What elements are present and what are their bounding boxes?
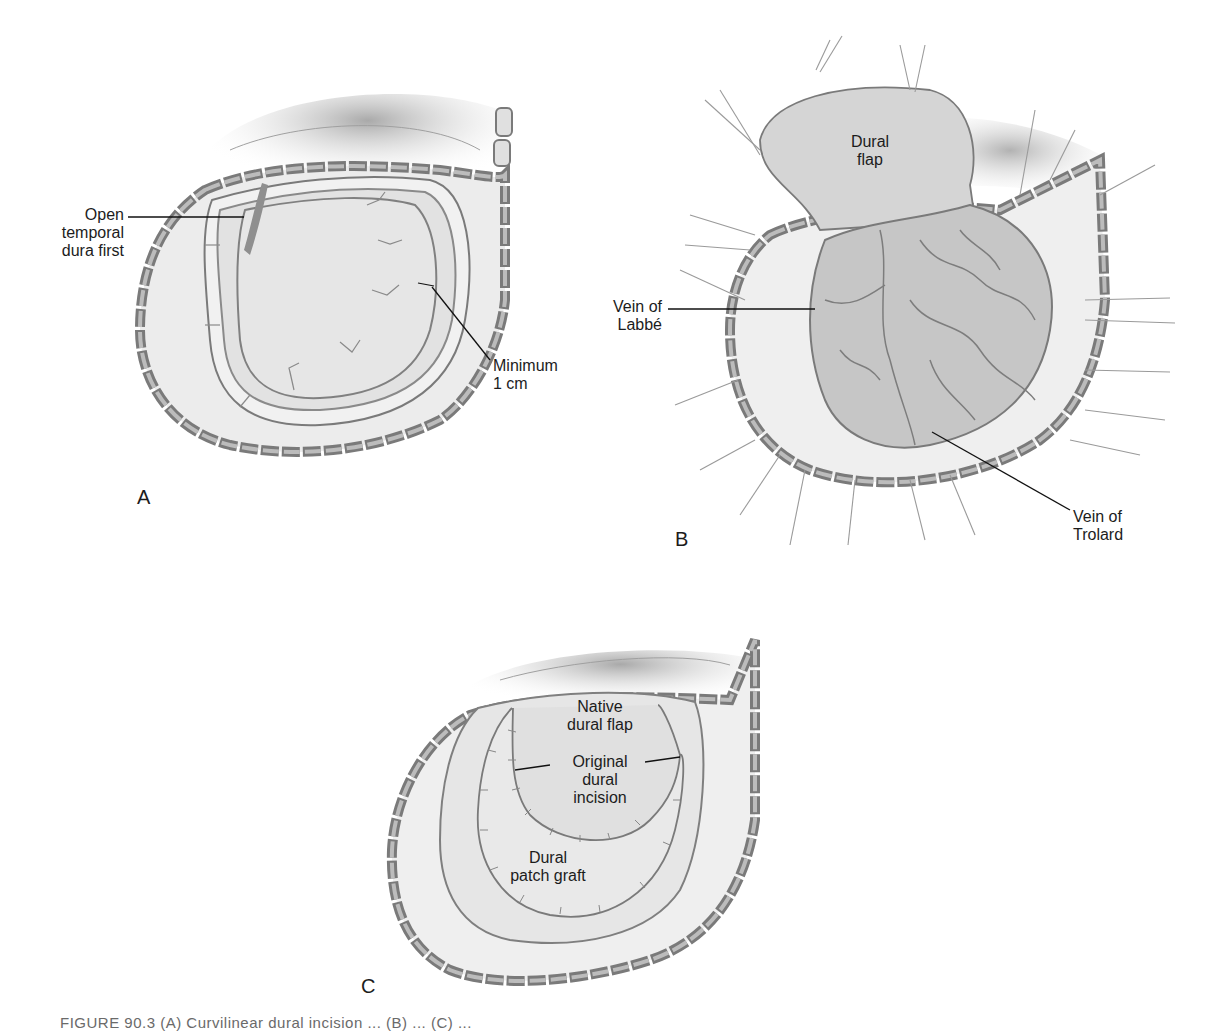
figure-caption-cropped: FIGURE 90.3 (A) Curvilinear dural incisi… [60,1014,1160,1034]
label-original-dural-incision: Original dural incision [555,753,645,807]
label-minimum: Minimum 1 cm [493,357,558,393]
label-dural-flap: Dural flap [830,133,910,169]
panel-letter-a: A [137,486,150,509]
panel-a: Open temporal dura first Minimum 1 cm A [0,0,580,520]
label-vein-of-trolard: Vein of Trolard [1073,508,1123,544]
label-open-temporal: Open temporal dura first [40,206,124,260]
panel-letter-b: B [675,528,688,551]
panel-c-illustration [300,620,800,1010]
label-native-dural-flap: Native dural flap [545,698,655,734]
panel-c: Native dural flap Original dural incisio… [300,620,800,1010]
label-vein-of-labbe: Vein of Labbé [580,298,662,334]
panel-a-illustration [0,0,580,520]
panel-letter-c: C [361,975,375,998]
panel-b-illustration [580,0,1208,560]
panel-b: Dural flap Vein of Labbé Vein of Trolard… [580,0,1208,560]
label-dural-patch-graft: Dural patch graft [493,849,603,885]
